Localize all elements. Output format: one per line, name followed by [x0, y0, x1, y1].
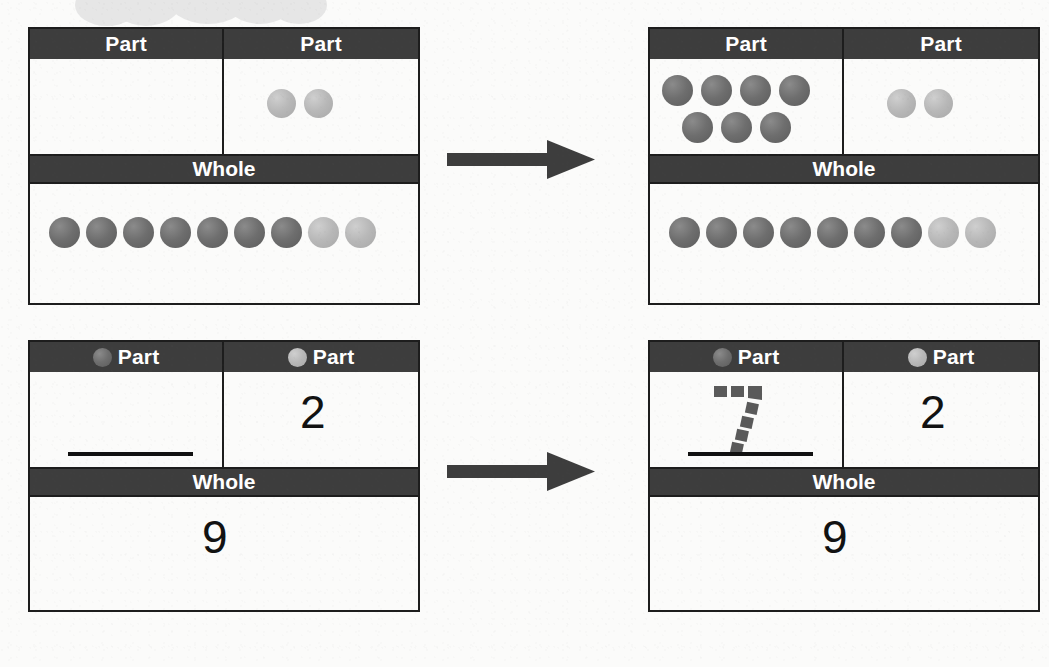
header-cell-part-left: Part — [30, 342, 224, 372]
counter-dot-light — [345, 217, 376, 248]
part-right-cell[interactable] — [844, 59, 1038, 154]
header-label-whole: Whole — [813, 157, 876, 181]
header-row-parts: Part Part — [650, 342, 1038, 372]
counter-dot-dark — [743, 217, 774, 248]
counter-dot-dark — [682, 112, 713, 143]
header-cell-part-right: Part — [224, 342, 418, 372]
header-counter-dot-light-icon — [908, 348, 927, 367]
counter-dot-light — [928, 217, 959, 248]
counter-dot-light — [267, 89, 296, 118]
counter-group-part-left-row1 — [662, 75, 810, 106]
part-left-cell[interactable] — [30, 372, 224, 467]
counter-dot-dark — [662, 75, 693, 106]
counter-dot-dark — [760, 112, 791, 143]
part-left-cell[interactable] — [30, 59, 224, 154]
part-part-whole-table-bottom-right: Part Part 2 — [648, 340, 1040, 612]
header-cell-whole: Whole — [650, 467, 1038, 497]
counter-dot-dark — [123, 217, 154, 248]
header-label-part-right: Part — [300, 32, 342, 56]
header-cell-part-left: Part — [650, 29, 844, 59]
numeral-whole: 9 — [822, 514, 848, 560]
counter-dot-light — [308, 217, 339, 248]
answer-line-part-left[interactable] — [688, 452, 813, 456]
counter-dot-dark — [49, 217, 80, 248]
header-cell-part-left: Part — [650, 342, 844, 372]
counter-dot-dark — [86, 217, 117, 248]
header-row-parts: Part Part — [30, 29, 418, 59]
counter-dot-dark — [740, 75, 771, 106]
header-label-whole: Whole — [193, 470, 256, 494]
counter-dot-dark — [780, 217, 811, 248]
part-part-whole-table-bottom-left: Part Part 2 Whole 9 — [28, 340, 420, 612]
parts-content-row — [30, 59, 418, 154]
header-label-whole: Whole — [813, 470, 876, 494]
right-arrow-icon-top — [447, 138, 597, 182]
header-counter-dot-dark-icon — [713, 348, 732, 367]
counter-dot-dark — [271, 217, 302, 248]
parts-content-row: 2 — [650, 372, 1038, 467]
whole-content-cell[interactable] — [30, 184, 418, 303]
part-part-whole-table-top-right: Part Part Whole — [648, 27, 1040, 305]
header-row-parts: Part Part — [30, 342, 418, 372]
header-label-part-right: Part — [313, 345, 355, 369]
part-right-cell[interactable]: 2 — [224, 372, 418, 467]
header-cell-part-right: Part — [844, 29, 1038, 59]
header-label-part-left: Part — [118, 345, 160, 369]
numeral-whole: 9 — [202, 514, 228, 560]
counter-dot-dark — [160, 217, 191, 248]
header-label-part-left: Part — [725, 32, 767, 56]
header-label-part-right: Part — [933, 345, 975, 369]
counter-dot-dark — [197, 217, 228, 248]
part-left-cell[interactable] — [650, 372, 844, 467]
header-cell-part-left: Part — [30, 29, 224, 59]
whole-content-cell[interactable]: 9 — [30, 497, 418, 610]
counter-dot-dark — [669, 217, 700, 248]
header-cell-whole: Whole — [30, 467, 418, 497]
numeral-part-right: 2 — [300, 389, 326, 435]
part-left-cell[interactable] — [650, 59, 844, 154]
counter-dot-light — [924, 89, 953, 118]
counter-dot-dark — [891, 217, 922, 248]
parts-content-row — [650, 59, 1038, 154]
traced-digit-seven — [710, 384, 780, 456]
counter-group-whole — [49, 217, 376, 248]
header-cell-whole: Whole — [30, 154, 418, 184]
header-counter-dot-light-icon — [288, 348, 307, 367]
header-label-part-left: Part — [738, 345, 780, 369]
whole-content-cell[interactable]: 9 — [650, 497, 1038, 610]
counter-dot-dark — [817, 217, 848, 248]
counter-dot-dark — [706, 217, 737, 248]
cloud-decoration — [75, 0, 325, 18]
header-cell-whole: Whole — [650, 154, 1038, 184]
header-cell-part-right: Part — [844, 342, 1038, 372]
numeral-part-right: 2 — [920, 389, 946, 435]
part-part-whole-table-top-left: Part Part Whole — [28, 27, 420, 305]
counter-dot-dark — [854, 217, 885, 248]
part-right-cell[interactable] — [224, 59, 418, 154]
header-cell-part-right: Part — [224, 29, 418, 59]
header-row-parts: Part Part — [650, 29, 1038, 59]
counter-dot-light — [304, 89, 333, 118]
counter-dot-dark — [234, 217, 265, 248]
counter-group-whole — [669, 217, 996, 248]
counter-dot-dark — [779, 75, 810, 106]
counter-group-part-right — [887, 89, 953, 118]
counter-dot-light — [887, 89, 916, 118]
header-counter-dot-dark-icon — [93, 348, 112, 367]
header-label-whole: Whole — [193, 157, 256, 181]
header-label-part-right: Part — [920, 32, 962, 56]
answer-line-part-left[interactable] — [68, 452, 193, 456]
parts-content-row: 2 — [30, 372, 418, 467]
header-label-part-left: Part — [105, 32, 147, 56]
counter-dot-dark — [721, 112, 752, 143]
part-right-cell[interactable]: 2 — [844, 372, 1038, 467]
whole-content-cell[interactable] — [650, 184, 1038, 303]
right-arrow-icon-bottom — [447, 450, 597, 494]
counter-dot-light — [965, 217, 996, 248]
counter-dot-dark — [701, 75, 732, 106]
counter-group-part-left-row2 — [682, 112, 791, 143]
counter-group-part-right — [267, 89, 333, 118]
